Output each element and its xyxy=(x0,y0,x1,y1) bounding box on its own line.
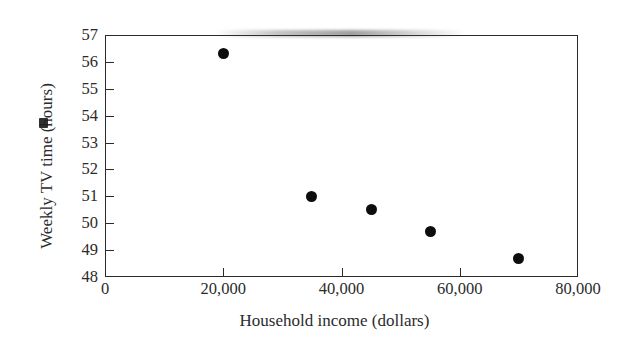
y-tick-mark xyxy=(105,143,114,144)
x-tick-label: 40,000 xyxy=(319,281,364,298)
y-axis-title-smudged-letter: h xyxy=(37,118,56,127)
x-tick-label: 80,000 xyxy=(555,281,600,298)
y-tick-mark xyxy=(105,223,114,224)
y-tick-label: 52 xyxy=(60,161,98,178)
y-tick-label: 50 xyxy=(60,215,98,232)
data-point xyxy=(366,204,377,215)
x-tick-label: 60,000 xyxy=(437,281,482,298)
y-axis-title: Weekly TV time (hours) xyxy=(37,41,57,291)
x-axis-title: Household income (dollars) xyxy=(0,311,623,331)
y-axis-title-prefix: Weekly TV time ( xyxy=(37,127,56,249)
y-tick-mark xyxy=(105,169,114,170)
scatter-chart-figure: 48495051525354555657 020,00040,00060,000… xyxy=(0,0,623,345)
y-tick-mark xyxy=(105,89,114,90)
y-tick-label: 53 xyxy=(60,135,98,152)
y-tick-label: 49 xyxy=(60,242,98,259)
y-tick-label: 55 xyxy=(60,81,98,98)
y-tick-mark xyxy=(105,62,114,63)
plot-frame xyxy=(105,35,578,277)
y-axis-title-suffix: ours) xyxy=(37,83,56,118)
data-point xyxy=(425,226,436,237)
y-tick-mark xyxy=(105,196,114,197)
y-tick-label: 54 xyxy=(60,108,98,125)
y-tick-label: 56 xyxy=(60,54,98,71)
y-tick-label: 51 xyxy=(60,188,98,205)
data-point xyxy=(218,48,229,59)
x-tick-mark xyxy=(342,268,343,277)
y-tick-mark xyxy=(105,116,114,117)
data-point xyxy=(513,253,524,264)
x-tick-label: 20,000 xyxy=(201,281,246,298)
y-tick-mark xyxy=(105,250,114,251)
x-tick-label: 0 xyxy=(101,281,109,298)
x-tick-mark xyxy=(223,268,224,277)
x-tick-mark xyxy=(460,268,461,277)
y-tick-label: 48 xyxy=(60,269,98,286)
y-tick-label: 57 xyxy=(60,27,98,44)
